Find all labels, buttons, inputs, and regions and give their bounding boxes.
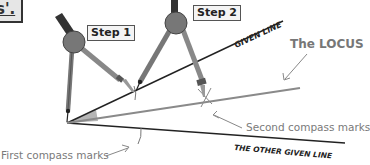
compass-2-pencil-clamp [196,78,206,86]
compass-1-pivot [63,31,85,53]
compass-2-pencil-tip [200,85,205,97]
locus-line [67,88,300,123]
compass-2-right-leg [183,30,202,80]
other-given-line-label: THE OTHER GIVEN LINE [234,143,333,161]
step-1-label: Step 1 [87,25,135,41]
first-marks-label: First compass marks [1,149,109,161]
given-line-label: GIVEN LINE [233,20,283,50]
locus-arrow [283,54,307,80]
first-marks-arrow [106,145,129,156]
compass-1-pencil-tip [122,79,135,92]
locus-label: The LOCUS [290,37,364,51]
step-2-label: Step 2 [193,5,241,21]
compass-1-right-leg [80,47,120,80]
first-mark-lower [138,128,141,144]
compass-2-pivot [165,12,187,34]
first-mark-upper [134,86,136,100]
second-marks-label: Second compass marks [246,121,370,133]
compass-2-left-leg [140,30,170,82]
second-marks-arrow [213,111,242,128]
compass-2-handle [171,0,178,13]
